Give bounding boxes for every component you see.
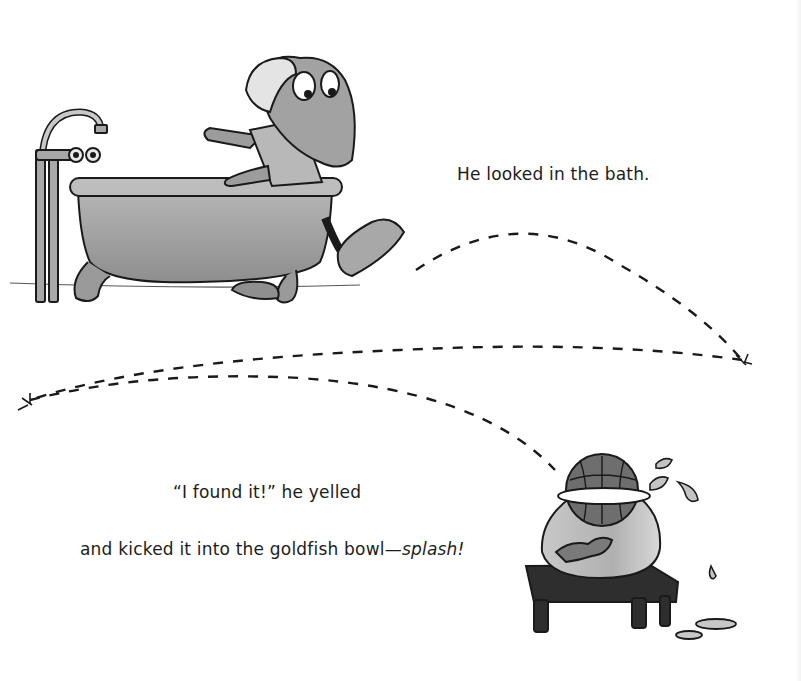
story-text-line-3-main: and kicked it into the goldfish bowl— bbox=[80, 539, 402, 559]
story-text-line-2: “I found it!” he yelled bbox=[173, 482, 361, 502]
goldfish-bowl-icon bbox=[542, 454, 660, 578]
illustration bbox=[0, 0, 801, 681]
splash-icon bbox=[650, 459, 716, 579]
impact-mark-icon bbox=[18, 354, 752, 410]
splash-emphasis: splash! bbox=[402, 539, 465, 559]
book-page: He looked in the bath. “I found it!” he … bbox=[0, 0, 801, 681]
page-edge bbox=[795, 0, 801, 681]
story-text-line-3: and kicked it into the goldfish bowl—spl… bbox=[80, 539, 465, 559]
floor-line bbox=[10, 283, 360, 287]
bathtub-icon bbox=[70, 178, 342, 303]
puddle-icon bbox=[676, 619, 736, 639]
story-text-line-1: He looked in the bath. bbox=[457, 164, 650, 184]
